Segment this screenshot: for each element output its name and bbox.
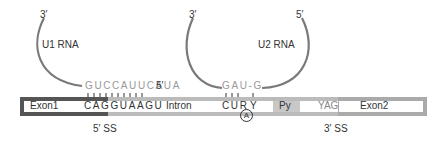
u1-rna-label: U1 RNA xyxy=(42,39,79,50)
three-prime-splice-site-label: 3′ SS xyxy=(324,123,348,134)
py-tract-label: Py xyxy=(279,100,291,111)
u1-3prime-label: 3′ xyxy=(40,9,47,20)
yag-label: YAG xyxy=(318,100,338,111)
u1-5prime-label: 5′ xyxy=(156,80,163,91)
u2-sequence: GAU-G xyxy=(222,80,263,91)
five-prime-splice-sequence: CAGGUAAGU xyxy=(84,100,163,111)
branch-site-y: Y xyxy=(250,100,258,111)
rna-strands xyxy=(0,0,446,144)
exon1-label: Exon1 xyxy=(30,100,58,111)
u1-sequence: GUCCAUUCAUA xyxy=(85,80,181,91)
u2-rna-strand-left xyxy=(187,18,222,88)
u2-rna-label: U2 RNA xyxy=(258,39,295,50)
intron-label: Intron xyxy=(166,100,192,111)
u2-5prime-label: 5′ xyxy=(296,9,303,20)
u2-rna-strand-right xyxy=(262,18,309,88)
branch-point-adenosine-icon: A xyxy=(240,109,253,122)
u2-3prime-label: 3′ xyxy=(189,9,196,20)
five-prime-splice-site-label: 5′ SS xyxy=(93,123,117,134)
exon2-label: Exon2 xyxy=(360,100,388,111)
u1-rna-strand xyxy=(37,18,82,86)
